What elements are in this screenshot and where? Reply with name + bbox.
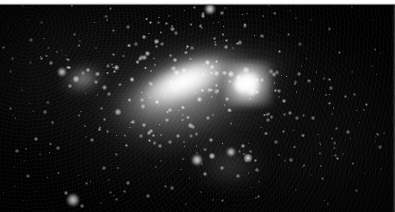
sky-background — [0, 0, 395, 212]
astronomical-photograph: irregular barred galaxy (Magellanic-type… — [0, 0, 395, 212]
page-margin-strip — [0, 0, 395, 5]
